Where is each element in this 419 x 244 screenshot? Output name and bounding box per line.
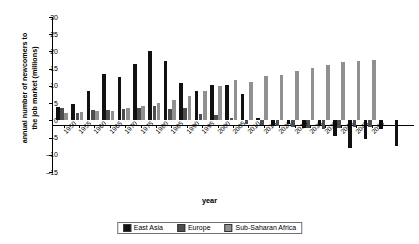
bar-africa bbox=[341, 62, 345, 120]
bar-east bbox=[195, 91, 199, 121]
bar-europe bbox=[214, 115, 218, 120]
chart-legend: East AsiaEuropeSub-Saharan Africa bbox=[117, 222, 302, 234]
bar-europe bbox=[122, 109, 126, 120]
bar-africa bbox=[111, 111, 115, 121]
bar-east bbox=[56, 107, 60, 121]
y-tick-label: 0 bbox=[34, 117, 58, 124]
bar-africa bbox=[203, 91, 207, 121]
bar-europe bbox=[137, 108, 141, 120]
y-tick-label: 10 bbox=[34, 82, 58, 89]
legend-item[interactable]: Sub-Saharan Africa bbox=[225, 224, 297, 232]
bar-east bbox=[179, 83, 183, 120]
y-tick-label: 5 bbox=[34, 100, 58, 107]
bar-east bbox=[148, 51, 152, 120]
x-axis-tick-labels: 1950195519601965197019751980198519901995… bbox=[52, 128, 414, 168]
bar-africa bbox=[80, 112, 84, 120]
y-tick-label: 20 bbox=[34, 48, 58, 55]
legend-label: East Asia bbox=[134, 224, 163, 232]
bar-africa bbox=[157, 103, 161, 120]
y-tick-label: 15 bbox=[34, 65, 58, 72]
bar-europe bbox=[199, 114, 203, 120]
bar-europe bbox=[60, 108, 64, 120]
bar-europe bbox=[168, 109, 172, 120]
bar-east bbox=[225, 85, 229, 120]
y-tick-label: –15 bbox=[34, 169, 58, 176]
legend-swatch-icon bbox=[225, 224, 233, 232]
bar-east bbox=[164, 61, 168, 121]
x-axis-title: year bbox=[0, 196, 419, 205]
bar-east bbox=[102, 74, 106, 121]
bar-east bbox=[241, 94, 245, 120]
bar-east bbox=[118, 77, 122, 121]
bar-east bbox=[133, 64, 137, 121]
y-tick-label: 30 bbox=[34, 14, 58, 21]
bar-east bbox=[210, 85, 214, 120]
bar-africa bbox=[280, 75, 284, 120]
bar-africa bbox=[264, 76, 268, 120]
bar-europe bbox=[153, 106, 157, 120]
legend-item[interactable]: East Asia bbox=[123, 224, 163, 232]
legend-item[interactable]: Europe bbox=[177, 224, 211, 232]
bar-africa bbox=[372, 60, 376, 121]
bar-africa bbox=[357, 61, 361, 120]
bar-africa bbox=[311, 68, 315, 120]
bar-africa bbox=[188, 96, 192, 121]
bar-africa bbox=[64, 113, 68, 120]
legend-swatch-icon bbox=[123, 224, 131, 232]
bar-europe bbox=[183, 108, 187, 120]
bar-europe bbox=[76, 113, 80, 121]
bar-africa bbox=[249, 82, 253, 120]
chart-container: annual number of newcomers to the job ma… bbox=[0, 0, 419, 244]
bar-africa bbox=[126, 108, 130, 121]
bar-africa bbox=[218, 86, 222, 120]
legend-label: Europe bbox=[188, 224, 211, 232]
bar-europe bbox=[91, 110, 95, 120]
y-axis-title-wrap: annual number of newcomers to the job ma… bbox=[0, 0, 26, 180]
bar-east bbox=[71, 104, 75, 120]
bar-africa bbox=[172, 100, 176, 120]
legend-swatch-icon bbox=[177, 224, 185, 232]
y-tick-label: 25 bbox=[34, 31, 58, 38]
bar-africa bbox=[141, 106, 145, 120]
bar-europe bbox=[106, 110, 110, 120]
bar-africa bbox=[295, 71, 299, 120]
bar-africa bbox=[234, 80, 238, 120]
legend-label: Sub-Saharan Africa bbox=[236, 224, 297, 232]
bar-europe bbox=[230, 118, 234, 121]
bar-east bbox=[87, 91, 91, 121]
bar-africa bbox=[326, 65, 330, 120]
bar-africa bbox=[95, 111, 99, 120]
